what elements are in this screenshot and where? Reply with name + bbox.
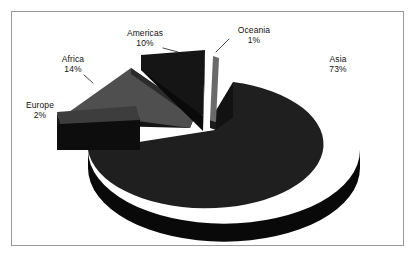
pie-label-europe: Europe 2% (16, 101, 64, 120)
pie-label-oceania-name: Oceania (238, 25, 270, 35)
pie-label-americas-name: Americas (127, 28, 163, 38)
leader-line-americas (163, 48, 178, 52)
leader-line-africa (84, 75, 93, 83)
figure-caption (4, 258, 412, 266)
pie-label-asia-percent: 73% (318, 65, 358, 75)
pie-label-oceania-percent: 1% (228, 36, 280, 46)
pie-label-europe-name: Europe (26, 100, 54, 110)
pie-label-oceania: Oceania 1% (228, 26, 280, 45)
pie-label-europe-percent: 2% (16, 111, 64, 121)
pie-slice-europe[interactable] (57, 106, 140, 150)
pie-chart (0, 0, 416, 266)
figure: Europe 2% Africa 14% Americas 10% Oceani… (0, 0, 416, 266)
pie-label-africa: Africa 14% (51, 55, 95, 74)
pie-label-americas: Americas 10% (116, 29, 174, 48)
pie-label-africa-name: Africa (62, 54, 84, 64)
pie-label-americas-percent: 10% (116, 39, 174, 49)
pie-label-asia-name: Asia (330, 54, 347, 64)
pie-label-africa-percent: 14% (51, 65, 95, 75)
pie-label-asia: Asia 73% (318, 55, 358, 74)
